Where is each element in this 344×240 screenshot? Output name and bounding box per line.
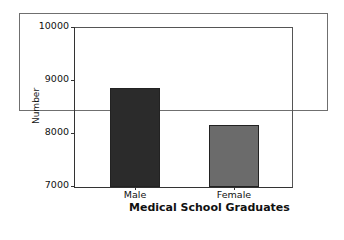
y-tick-label: 7000: [29, 179, 69, 190]
x-tick-label-male: Male: [95, 189, 175, 200]
x-axis-title: Medical School Graduates: [129, 201, 290, 214]
bar-male[interactable]: [110, 88, 160, 187]
plot-area: [74, 27, 293, 188]
bar-female[interactable]: [209, 125, 259, 187]
y-tick-8000: [71, 133, 75, 134]
y-tick-9000: [71, 80, 75, 81]
y-tick-label: 8000: [29, 126, 69, 137]
y-tick-label: 9000: [29, 73, 69, 84]
y-tick-10000: [71, 27, 75, 28]
x-tick-label-female: Female: [194, 189, 274, 200]
y-tick-7000: [71, 186, 75, 187]
y-tick-label: 10000: [29, 20, 69, 31]
y-axis-title: Number: [31, 86, 41, 126]
